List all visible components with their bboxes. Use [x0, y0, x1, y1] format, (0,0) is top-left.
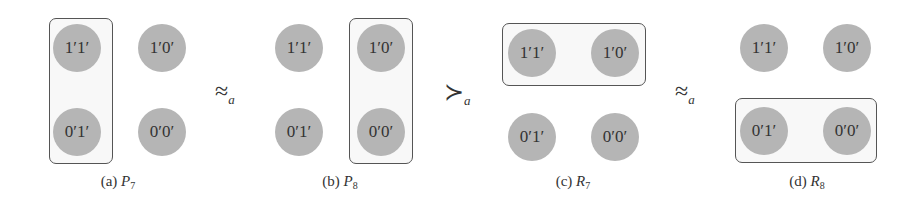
caption-d: (d) R8: [789, 173, 824, 191]
node-bottom-left: 0′1′: [740, 107, 788, 155]
node-bottom-right: 0′0′: [591, 113, 639, 161]
node-top-right: 1′0′: [138, 24, 186, 72]
caption-a: (a) P7: [101, 173, 136, 191]
node-bottom-right: 0′0′: [138, 108, 186, 156]
node-top-right: 1′0′: [357, 24, 405, 72]
panel-a: 1′1′ 1′0′ 0′1′ 0′0′ (a) P7: [0, 0, 230, 203]
relation-succ: ≻a: [444, 78, 471, 109]
node-top-right: 1′0′: [823, 24, 871, 72]
node-bottom-right: 0′0′: [823, 107, 871, 155]
node-top-left: 1′1′: [53, 24, 101, 72]
caption-b: (b) P8: [322, 173, 357, 191]
node-top-left: 1′1′: [275, 24, 323, 72]
panel-b: 1′1′ 1′0′ 0′1′ 0′0′ (b) P8: [240, 0, 470, 203]
node-top-left: 1′1′: [740, 24, 788, 72]
node-bottom-right: 0′0′: [357, 108, 405, 156]
panel-d: 1′1′ 1′0′ 0′1′ 0′0′ (d) R8: [690, 0, 920, 203]
node-top-right: 1′0′: [591, 29, 639, 77]
node-bottom-left: 0′1′: [275, 108, 323, 156]
relation-approx-1: ≈a: [215, 78, 235, 108]
panel-c: 1′1′ 1′0′ 0′1′ 0′0′ (c) R7: [470, 0, 700, 203]
node-bottom-left: 0′1′: [53, 108, 101, 156]
node-bottom-left: 0′1′: [508, 113, 556, 161]
caption-c: (c) R7: [556, 173, 591, 191]
node-top-left: 1′1′: [508, 29, 556, 77]
